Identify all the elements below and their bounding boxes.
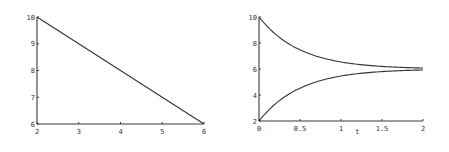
- data-series: [37, 17, 204, 124]
- y-tick-label: 10: [249, 14, 257, 22]
- chart-left-linear: 23456678910: [27, 14, 207, 137]
- chart-right-convergence: 00.511.52246810t: [249, 14, 426, 137]
- x-tick-label: 5: [160, 128, 164, 136]
- x-tick-label: 0: [257, 125, 261, 133]
- x-tick-label: 4: [118, 128, 122, 136]
- y-tick-label: 7: [31, 94, 35, 102]
- x-tick-label: 1: [339, 125, 343, 133]
- y-tick-label: 6: [253, 66, 257, 74]
- y-tick-label: 9: [31, 40, 35, 48]
- x-tick-label: 6: [202, 128, 206, 136]
- y-tick-label: 10: [27, 14, 35, 22]
- y-tick-label: 2: [253, 118, 257, 126]
- x-tick-label: 3: [77, 128, 81, 136]
- y-tick-label: 8: [31, 67, 35, 75]
- y-tick-label: 8: [253, 40, 257, 48]
- y-tick-label: 4: [253, 92, 257, 100]
- y-tick-label: 6: [31, 121, 35, 129]
- data-series: [259, 17, 423, 68]
- x-tick-label: 2: [35, 128, 39, 136]
- x-tick-label: 0.5: [294, 125, 307, 133]
- x-tick-label: 2: [421, 125, 425, 133]
- data-series: [259, 70, 423, 121]
- x-tick-label: 1.5: [376, 125, 389, 133]
- x-axis-label: t: [355, 128, 359, 136]
- chart-canvas: 23456678910 00.511.52246810t: [0, 0, 449, 152]
